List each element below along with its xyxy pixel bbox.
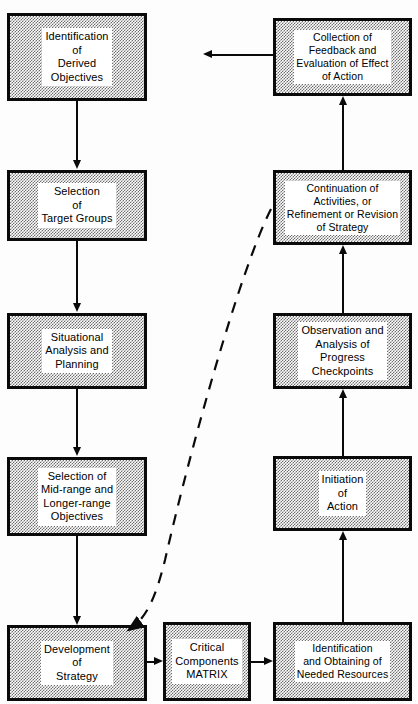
connector-c4-line	[76, 536, 78, 617]
flowchart-canvas: Identification of Derived Objectives Sel…	[0, 0, 418, 704]
connector-c1-line	[76, 101, 78, 161]
node-observation-and-analysis-of-progress-checkpoints[interactable]: Observation and Analysis of Progress Che…	[273, 313, 412, 389]
node-situational-analysis-and-planning[interactable]: Situational Analysis and Planning	[7, 313, 147, 389]
node-label: Situational Analysis and Planning	[42, 329, 112, 374]
connector-c8-line	[342, 398, 344, 456]
node-selection-of-mid-range-and-longer-range-objectives[interactable]: Selection of Mid-range and Longer-range …	[7, 457, 147, 536]
connector-c2-arrowhead	[73, 303, 81, 312]
connector-c3-line	[76, 389, 78, 448]
node-initiation-of-action[interactable]: Initiation of Action	[273, 456, 412, 531]
node-label: Critical Components MATRIX	[172, 639, 241, 684]
node-label: Selection of Target Groups	[38, 183, 115, 228]
connector-c1-arrowhead	[73, 160, 81, 169]
connector-c7-arrowhead	[339, 531, 347, 540]
node-continuation-of-activities-or-refinement-or-revision-of-strategy[interactable]: Continuation of Activities, or Refinemen…	[273, 170, 412, 245]
connector-c11-arrowhead	[203, 50, 212, 58]
connector-c6-line	[251, 661, 265, 663]
node-collection-of-feedback-and-evaluation-of-effect-of-action[interactable]: Collection of Feedback and Evaluation of…	[273, 18, 412, 96]
connector-c2-line	[76, 241, 78, 304]
node-label: Continuation of Activities, or Refinemen…	[285, 181, 400, 235]
node-critical-components-matrix[interactable]: Critical Components MATRIX	[163, 622, 251, 701]
node-label: Identification of Derived Objectives	[42, 28, 111, 86]
connector-c10-arrowhead	[339, 96, 347, 105]
node-label: Collection of Feedback and Evaluation of…	[294, 30, 390, 84]
connector-c4-arrowhead	[73, 616, 81, 625]
node-label: Identification and Obtaining of Needed R…	[295, 641, 391, 682]
connector-c5-arrowhead	[154, 657, 163, 665]
connector-c8-arrowhead	[339, 389, 347, 398]
connector-c11-line	[212, 54, 273, 56]
connector-c9-arrowhead	[339, 245, 347, 254]
connector-c3-arrowhead	[73, 447, 81, 456]
connector-c6-arrowhead	[264, 657, 273, 665]
node-label: Selection of Mid-range and Longer-range …	[38, 468, 116, 526]
connector-c10-line	[342, 105, 344, 170]
connector-c9-line	[342, 254, 344, 313]
node-development-of-strategy[interactable]: Development of Strategy	[7, 625, 147, 701]
connector-c7-line	[342, 540, 344, 622]
node-identification-of-derived-objectives[interactable]: Identification of Derived Objectives	[7, 13, 147, 101]
node-identification-and-obtaining-of-needed-resources[interactable]: Identification and Obtaining of Needed R…	[273, 622, 412, 701]
node-label: Observation and Analysis of Progress Che…	[298, 322, 386, 380]
node-label: Initiation of Action	[319, 471, 367, 516]
node-label: Development of Strategy	[41, 641, 113, 686]
node-selection-of-target-groups[interactable]: Selection of Target Groups	[7, 170, 147, 241]
